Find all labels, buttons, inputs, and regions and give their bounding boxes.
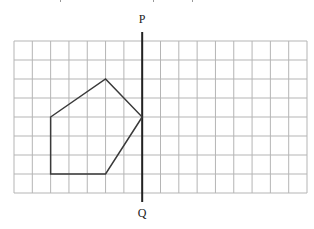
cropped-text-fragments — [60, 0, 193, 2]
pentagon-shape — [51, 79, 143, 174]
reflection-diagram — [0, 0, 314, 229]
label-p: P — [139, 13, 146, 25]
square-grid — [14, 41, 307, 193]
label-q: Q — [138, 207, 147, 219]
